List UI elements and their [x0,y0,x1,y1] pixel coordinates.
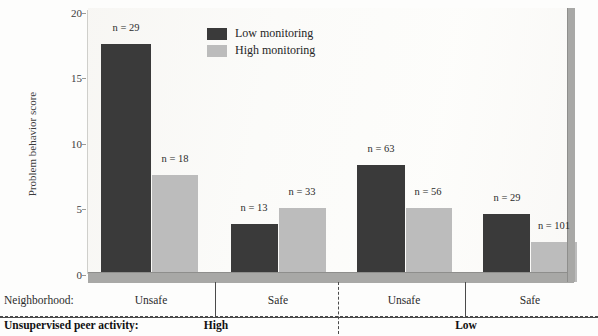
y-tick-10: 10 [52,139,82,150]
neighborhood-value-2: Safe [232,294,324,306]
separator-group1-inner [215,282,216,316]
legend: Low monitoring High monitoring [207,25,315,59]
neighborhood-value-3: Unsafe [358,294,450,306]
legend-swatch-low-monitoring-icon [207,28,227,40]
bar-label-g3-low: n = 63 [331,143,431,154]
peer-activity-value-low: Low [420,319,512,331]
y-tick-mark-5 [82,209,86,210]
neighborhood-value-1: Unsafe [105,294,197,306]
bar-label-g2-high: n = 33 [252,186,352,197]
bar-g1-high-monitoring [152,175,198,282]
y-tick-mark-10 [82,144,86,145]
axis-right-wall [567,8,575,282]
legend-swatch-high-monitoring-icon [207,45,227,57]
bar-label-g1-high: n = 18 [125,153,225,164]
y-tick-15: 15 [52,73,82,84]
bar-label-g2-low: n = 13 [204,202,304,213]
bottom-axis-labels: Neighborhood: Unsafe Safe Unsafe Safe Un… [0,282,598,336]
peer-activity-row: Unsupervised peer activity: High Low [0,319,598,336]
legend-item-low-monitoring: Low monitoring [207,25,315,42]
bar-label-g4-low: n = 29 [457,192,557,203]
neighborhood-row: Neighborhood: Unsafe Safe Unsafe Safe [0,292,598,314]
y-tick-mark-15 [82,78,86,79]
y-tick-mark-0 [82,275,86,276]
legend-label-high-monitoring: High monitoring [235,43,315,58]
y-tick-5: 5 [52,204,82,215]
separator-group2-inner [465,282,466,316]
bar-g3-low-monitoring [357,165,405,282]
bar-label-g1-low: n = 29 [76,22,176,33]
bar-label-g4-high: n = 101 [504,220,598,231]
separator-peer-top [0,317,598,318]
bar-g3-high-monitoring [406,208,452,282]
bar-g2-high-monitoring [279,208,326,282]
y-axis-title: Problem behavior score [26,64,38,224]
y-tick-mark-20 [82,13,86,14]
bar-chart-figure: 20 15 10 5 0 Problem behavior score n = … [0,0,598,336]
legend-item-high-monitoring: High monitoring [207,42,315,59]
neighborhood-key-label: Neighborhood: [4,294,74,306]
legend-label-low-monitoring: Low monitoring [235,26,313,41]
y-tick-0: 0 [52,270,82,281]
peer-activity-value-high: High [170,319,262,331]
y-axis-line [87,10,88,274]
peer-activity-key-label: Unsupervised peer activity: [4,319,139,331]
neighborhood-value-4: Safe [484,294,576,306]
y-tick-20: 20 [52,8,82,19]
